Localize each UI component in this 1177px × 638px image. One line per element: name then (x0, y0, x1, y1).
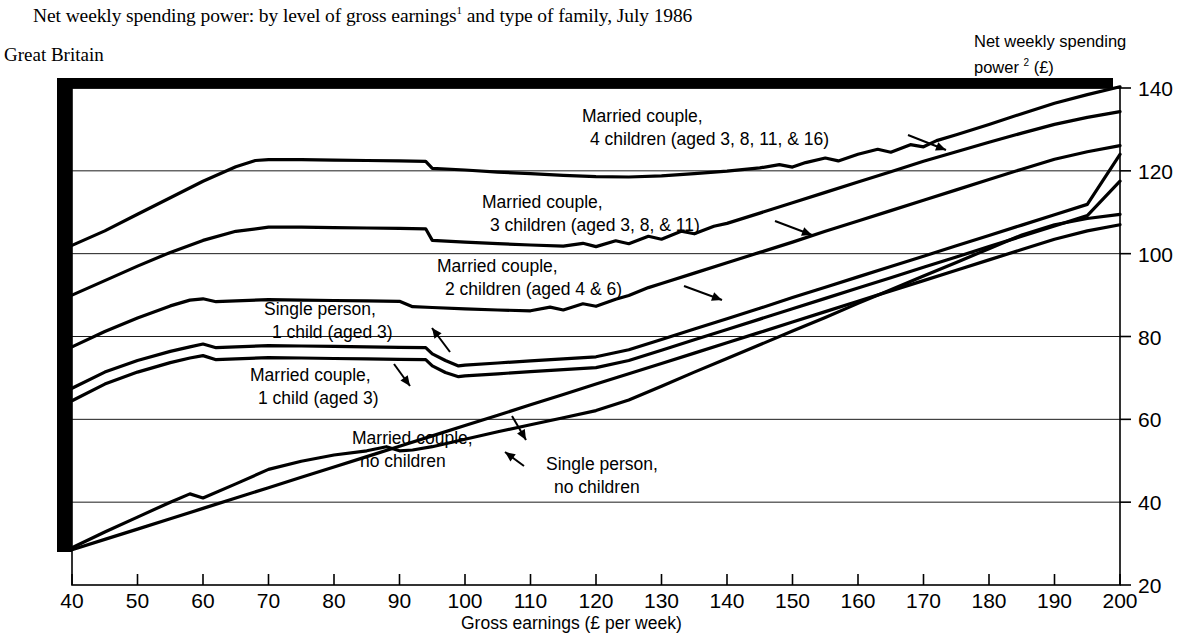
x-tick-label: 70 (257, 589, 280, 612)
series-leader-head-0 (935, 142, 946, 150)
x-tick-label: 200 (1102, 589, 1137, 612)
line-chart: Married couple,4 children (aged 3, 8, 11… (0, 0, 1177, 638)
series-leader-head-6 (505, 452, 516, 462)
y-tick-label: 140 (1138, 77, 1173, 100)
plot-shadow-left (57, 78, 72, 552)
x-tick-label: 120 (578, 589, 613, 612)
x-axis-title: Gross earnings (£ per week) (461, 613, 682, 633)
series-annotation-1: Married couple,3 children (aged 3, 8, & … (482, 192, 700, 235)
y-tick-label: 80 (1138, 326, 1161, 349)
y-tick-label: 60 (1138, 408, 1161, 431)
plot-shadow-top (57, 78, 1113, 88)
series-leader-head-3 (432, 328, 442, 339)
series-line-5 (72, 214, 1120, 547)
x-tick-label: 160 (840, 589, 875, 612)
series-annotation-3: Single person,1 child (aged 3) (264, 299, 393, 342)
series-annotation-6: Single person,no children (546, 454, 658, 497)
x-tick-label: 190 (1037, 589, 1072, 612)
series-line-6 (72, 225, 1120, 550)
x-tick-label: 180 (971, 589, 1006, 612)
series-leader-head-2 (711, 292, 722, 300)
tick-labels: 4050607080901001101201301401501601701801… (60, 77, 1173, 612)
series-annotations: Married couple,4 children (aged 3, 8, 11… (250, 106, 946, 497)
x-tick-label: 170 (906, 589, 941, 612)
x-tick-label: 40 (60, 589, 83, 612)
x-tick-label: 80 (322, 589, 345, 612)
x-tick-label: 60 (191, 589, 214, 612)
x-tick-label: 140 (709, 589, 744, 612)
x-tick-label: 50 (126, 589, 149, 612)
series-leader-head-4 (400, 375, 410, 386)
series-annotation-4: Married couple,1 child (aged 3) (250, 365, 379, 408)
y-tick-label: 20 (1138, 574, 1161, 597)
series-annotation-0: Married couple,4 children (aged 3, 8, 11… (582, 106, 829, 149)
series-annotation-2: Married couple,2 children (aged 4 & 6) (437, 256, 622, 299)
y-tick-label: 40 (1138, 491, 1161, 514)
x-tick-label: 110 (514, 589, 547, 612)
x-tick-label: 100 (447, 589, 482, 612)
x-tick-label: 130 (644, 589, 679, 612)
x-tick-label: 150 (775, 589, 810, 612)
y-tick-label: 100 (1138, 243, 1173, 266)
x-tick-label: 90 (388, 589, 411, 612)
y-tick-label: 120 (1138, 160, 1173, 183)
series-leader-head-1 (801, 227, 812, 235)
